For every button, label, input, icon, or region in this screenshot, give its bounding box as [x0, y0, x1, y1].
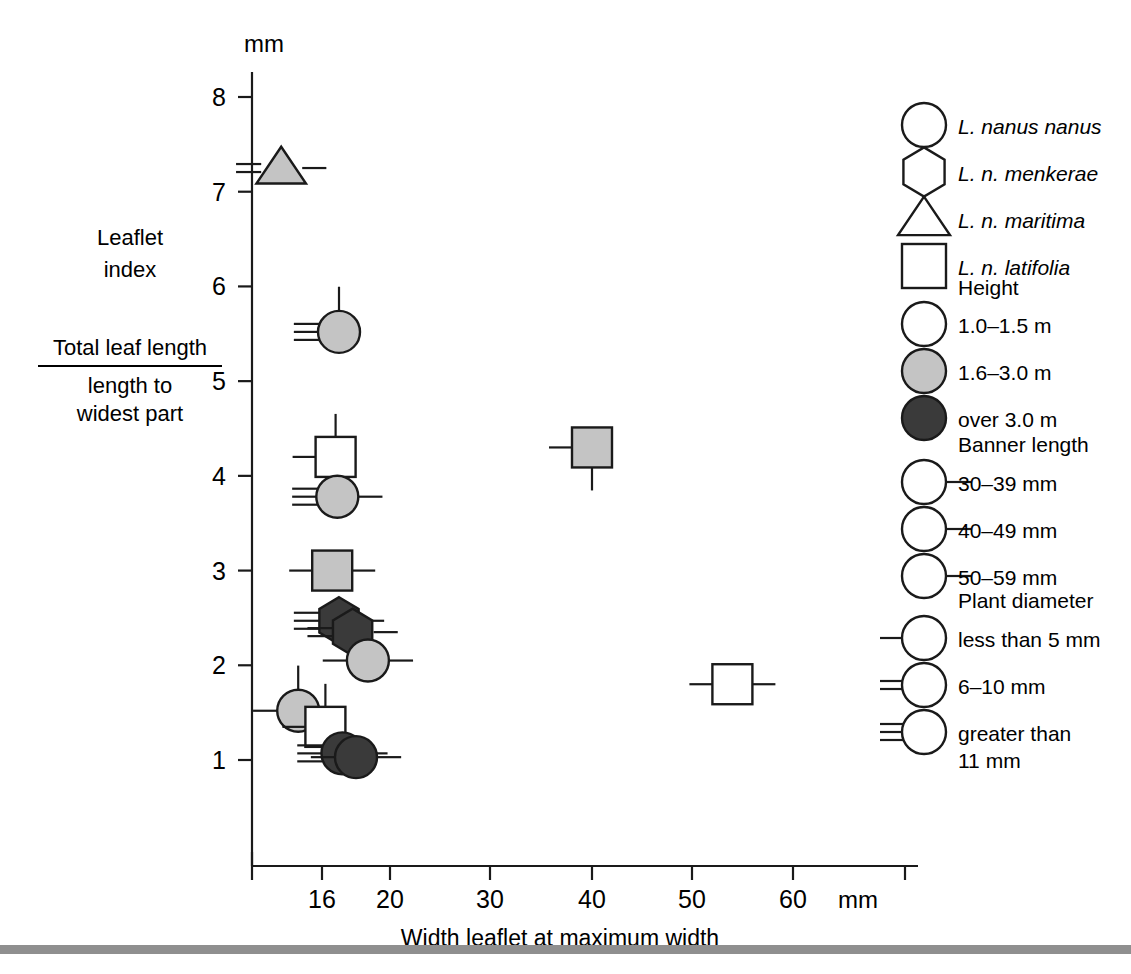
legend-label: 1.6–3.0 m: [958, 361, 1051, 384]
y-axis-fraction-denominator: length to: [88, 373, 172, 398]
data-point: [689, 664, 775, 704]
y-axis-title: Leaflet: [97, 225, 163, 250]
circle-marker: [902, 663, 946, 707]
x-tick-label: 60: [779, 885, 807, 913]
square-marker: [712, 664, 752, 704]
legend-label: L. n. maritima: [958, 209, 1085, 232]
y-axis-fraction-numerator: Total leaf length: [53, 335, 207, 360]
legend-label: 30–39 mm: [958, 472, 1057, 495]
data-point: [549, 427, 612, 490]
x-axis-unit: mm: [838, 886, 878, 913]
legend-item: 1.0–1.5 m: [902, 302, 1051, 346]
square-marker: [316, 437, 356, 477]
circle-marker: [902, 616, 946, 660]
circle-marker: [902, 460, 946, 504]
legend-diameter-title: Plant diameter: [958, 589, 1093, 612]
legend-item: L. n. menkerae: [903, 147, 1098, 196]
legend-label: less than 5 mm: [958, 628, 1100, 651]
legend: L. nanus nanusL. n. menkeraeL. n. mariti…: [880, 103, 1102, 772]
x-tick-label: 50: [678, 885, 706, 913]
legend-item: greater than11 mm: [880, 710, 1071, 772]
circle-marker: [318, 311, 360, 353]
data-point: [289, 551, 375, 591]
y-tick-label: 1: [212, 746, 226, 774]
circle-marker: [902, 554, 946, 598]
hexagon-marker: [903, 147, 944, 196]
y-tick-label: 4: [212, 462, 226, 490]
legend-label: L. nanus nanus: [958, 115, 1102, 138]
circle-marker: [347, 640, 389, 682]
legend-label: 40–49 mm: [958, 519, 1057, 542]
legend-banner-title: Banner length: [958, 433, 1089, 456]
x-tick-label: 30: [476, 885, 504, 913]
legend-label: over 3.0 m: [958, 408, 1057, 431]
y-tick-label: 3: [212, 557, 226, 585]
figure-canvas: 12345678162030405060mmmmWidth leaflet at…: [0, 0, 1131, 974]
square-marker: [312, 551, 352, 591]
data-points: [236, 147, 775, 778]
circle-marker: [902, 396, 946, 440]
legend-item: 1.6–3.0 m: [902, 349, 1051, 393]
circle-marker: [902, 103, 946, 147]
y-tick-label: 2: [212, 651, 226, 679]
circle-marker: [902, 349, 946, 393]
x-tick-label: 40: [578, 885, 606, 913]
x-tick-label: 16: [308, 885, 336, 913]
y-tick-label: 6: [212, 272, 226, 300]
y-axis-unit: mm: [244, 30, 284, 57]
square-marker: [902, 244, 946, 288]
legend-item: L. nanus nanus: [902, 103, 1102, 147]
circle-marker: [902, 302, 946, 346]
legend-item: 30–39 mm: [902, 460, 1057, 504]
y-tick-label: 8: [212, 83, 226, 111]
footer-rule: [0, 945, 1131, 954]
circle-marker: [335, 736, 377, 778]
x-tick-label: 20: [376, 885, 404, 913]
y-tick-label: 5: [212, 367, 226, 395]
legend-label: 50–59 mm: [958, 566, 1057, 589]
square-marker: [572, 427, 612, 467]
legend-item: L. n. maritima: [898, 197, 1085, 236]
circle-marker: [902, 710, 946, 754]
scatter-plot-figure: 12345678162030405060mmmmWidth leaflet at…: [0, 0, 1131, 974]
legend-item: less than 5 mm: [880, 616, 1100, 660]
y-tick-label: 7: [212, 178, 226, 206]
data-point: [294, 287, 360, 353]
data-point: [292, 476, 382, 518]
legend-label: 11 mm: [958, 749, 1021, 772]
y-axis-fraction-denominator: widest part: [76, 401, 183, 426]
data-point: [293, 414, 356, 477]
data-point: [236, 147, 326, 184]
triangle-marker: [256, 147, 306, 184]
legend-item: 40–49 mm: [902, 507, 1057, 551]
y-axis-title: index: [104, 257, 157, 282]
triangle-marker: [898, 197, 950, 236]
circle-marker: [316, 476, 358, 518]
legend-label: L. n. menkerae: [958, 162, 1098, 185]
legend-item: 6–10 mm: [880, 663, 1046, 707]
axis-labels: 12345678162030405060mmmmWidth leaflet at…: [38, 30, 878, 951]
circle-marker: [902, 507, 946, 551]
legend-label: 1.0–1.5 m: [958, 314, 1051, 337]
legend-height-title: Height: [958, 276, 1019, 299]
legend-label: greater than: [958, 722, 1071, 745]
legend-label: 6–10 mm: [958, 675, 1046, 698]
